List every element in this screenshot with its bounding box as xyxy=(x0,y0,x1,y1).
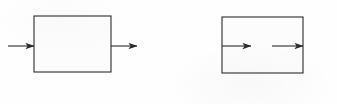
diagram-canvas xyxy=(0,0,337,104)
left-box xyxy=(34,16,111,72)
figure-container: Two block diagrams: a box with an extern… xyxy=(0,0,337,104)
left-diagram xyxy=(8,16,137,72)
right-diagram xyxy=(222,17,303,73)
right-box xyxy=(222,17,303,73)
